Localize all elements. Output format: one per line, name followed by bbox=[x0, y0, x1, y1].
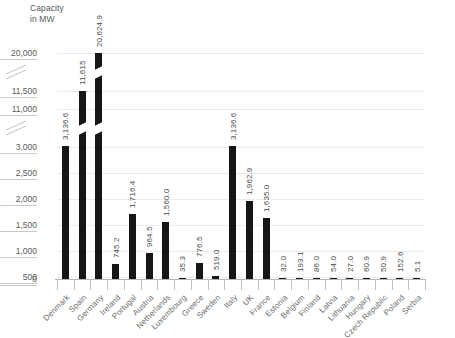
x-axis-tick bbox=[107, 279, 108, 290]
bar[interactable]: 1,962.9 bbox=[246, 201, 253, 279]
y-axis-tick-label: 11,500 bbox=[0, 86, 37, 98]
bar[interactable]: 20,624.9 bbox=[95, 53, 102, 279]
x-axis-tick bbox=[375, 279, 376, 290]
bar-value-label: 1,962.9 bbox=[245, 168, 254, 195]
bar-value-label: 32.0 bbox=[278, 256, 287, 272]
bar[interactable]: 519.0 bbox=[212, 276, 219, 279]
bar[interactable]: 1,560.0 bbox=[162, 222, 169, 279]
axis-break-marker bbox=[3, 66, 33, 78]
x-axis-tick bbox=[392, 279, 393, 290]
bar-value-label: 35.3 bbox=[178, 256, 187, 272]
y-axis-tick-label: 20,000 bbox=[0, 48, 37, 60]
y-axis-tick-label: 1,000 bbox=[0, 246, 37, 258]
bar-value-label: 964.5 bbox=[145, 226, 154, 247]
bar-value-label: 5.1 bbox=[412, 260, 421, 271]
x-axis-tick bbox=[358, 279, 359, 290]
bar[interactable]: 776.5 bbox=[196, 263, 203, 279]
x-axis-tick bbox=[325, 279, 326, 290]
bar[interactable]: 3,136.6 bbox=[229, 146, 236, 279]
bar[interactable]: 193.1 bbox=[296, 278, 303, 280]
x-axis-tick bbox=[157, 279, 158, 290]
x-axis-tick bbox=[141, 279, 142, 290]
y-axis-tick-label: 2,500 bbox=[0, 168, 37, 180]
bar[interactable]: 964.5 bbox=[146, 253, 153, 279]
gridline bbox=[57, 173, 425, 174]
bar[interactable]: 54.0 bbox=[330, 278, 337, 280]
bar[interactable]: 60.9 bbox=[363, 278, 370, 280]
y-axis-tick-label: 1,500 bbox=[0, 220, 37, 232]
bar-value-label: 60.9 bbox=[362, 256, 371, 272]
bar[interactable]: 86.0 bbox=[313, 278, 320, 280]
x-axis-tick bbox=[308, 279, 309, 290]
chart-axis-title: Capacity in MW bbox=[30, 3, 64, 24]
x-axis-tick bbox=[425, 279, 426, 290]
bar[interactable]: 50.9 bbox=[380, 278, 387, 280]
bar[interactable]: 745.2 bbox=[112, 264, 119, 279]
x-axis-tick bbox=[224, 279, 225, 290]
gridline bbox=[57, 53, 425, 54]
bar[interactable]: 35.3 bbox=[179, 278, 186, 280]
x-axis-tick bbox=[57, 279, 58, 290]
bar-value-label: 20,624.9 bbox=[94, 15, 103, 47]
x-axis-tick bbox=[341, 279, 342, 290]
bar[interactable]: 1,635.0 bbox=[263, 218, 270, 279]
gridline bbox=[57, 91, 425, 92]
bar[interactable]: 32.0 bbox=[279, 278, 286, 280]
bar[interactable]: 5.1 bbox=[413, 278, 420, 280]
x-axis-tick bbox=[208, 279, 209, 290]
bar-value-label: 1,716.4 bbox=[128, 180, 137, 207]
y-axis-tick-label: 0 bbox=[0, 274, 37, 286]
axis-break-marker bbox=[3, 122, 33, 134]
bar[interactable]: 1,716.4 bbox=[129, 214, 136, 279]
y-axis-tick-label: 2,000 bbox=[0, 194, 37, 206]
bar-value-label: 11,615 bbox=[78, 60, 87, 84]
x-axis-tick bbox=[174, 279, 175, 290]
bar-value-label: 193.1 bbox=[295, 251, 304, 272]
bar-value-label: 745.2 bbox=[111, 238, 120, 259]
y-axis-tick-label: 3.000 bbox=[0, 142, 37, 154]
x-axis-tick bbox=[74, 279, 75, 290]
x-axis-tick bbox=[291, 279, 292, 290]
bar-value-label: 1,560.0 bbox=[161, 188, 170, 215]
capacity-bar-chart: Capacity in MW 20,00011,50011,0003.0002,… bbox=[0, 0, 455, 338]
bar-value-label: 1,635.0 bbox=[262, 185, 271, 212]
bar-value-label: 152.6 bbox=[395, 251, 404, 272]
gridline bbox=[57, 147, 425, 148]
gridline bbox=[57, 199, 425, 200]
bar-value-label: 3,136.6 bbox=[61, 113, 70, 140]
x-axis-tick bbox=[241, 279, 242, 290]
plot-area: 20,00011,50011,0003.0002,5002,0001,5001,… bbox=[57, 50, 425, 279]
bar-value-label: 519.0 bbox=[211, 249, 220, 270]
bar-value-label: 3,136.6 bbox=[228, 113, 237, 140]
bar-value-label: 50.9 bbox=[379, 256, 388, 272]
x-axis-tick bbox=[274, 279, 275, 290]
x-axis-tick bbox=[408, 279, 409, 290]
bar-value-label: 776.5 bbox=[195, 236, 204, 257]
x-axis-tick bbox=[191, 279, 192, 290]
bar[interactable]: 3,136.6 bbox=[62, 146, 69, 279]
x-axis-tick bbox=[124, 279, 125, 290]
gridline bbox=[57, 225, 425, 226]
bar[interactable]: 152.6 bbox=[396, 278, 403, 280]
x-axis-tick bbox=[90, 279, 91, 290]
bar-value-label: 86.0 bbox=[312, 256, 321, 272]
y-axis-tick-label: 11,000 bbox=[0, 104, 37, 116]
gridline bbox=[57, 109, 425, 110]
bar[interactable]: 27.0 bbox=[346, 278, 353, 280]
bar-value-label: 27.0 bbox=[345, 256, 354, 272]
axis-baseline bbox=[55, 279, 425, 280]
bar-value-label: 54.0 bbox=[329, 256, 338, 272]
bar[interactable]: 11,615 bbox=[79, 91, 86, 280]
x-axis-tick bbox=[258, 279, 259, 290]
